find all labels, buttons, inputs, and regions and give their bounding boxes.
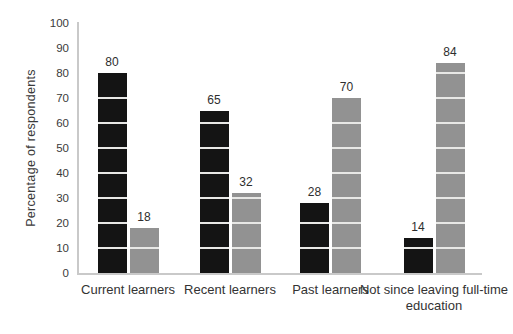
y-tick-label: 20 (37, 216, 69, 230)
bar-gray-series (436, 63, 465, 273)
gridline-segment (300, 247, 329, 249)
y-tick-label: 50 (37, 141, 69, 155)
bar-value-label: 32 (226, 175, 266, 189)
x-axis-baseline (77, 273, 482, 275)
y-tick-label: 30 (37, 191, 69, 205)
gridline-segment (404, 247, 433, 249)
gridline-segment (436, 122, 465, 124)
bar-black-series (200, 111, 229, 274)
bar-chart-figure: Percentage of respondents 01020304050607… (0, 0, 513, 334)
gridline-segment (436, 147, 465, 149)
bar-gray-series (232, 193, 261, 273)
gridline-segment (200, 147, 229, 149)
gridline-segment (98, 97, 127, 99)
gridline-segment (436, 97, 465, 99)
y-tick-label: 90 (37, 41, 69, 55)
gridline-segment (436, 72, 465, 74)
y-tick-label: 80 (37, 66, 69, 80)
gridline-segment (332, 172, 361, 174)
y-tick-label: 70 (37, 91, 69, 105)
y-tick-label: 40 (37, 166, 69, 180)
bar-black-series (404, 238, 433, 273)
gridline-segment (332, 247, 361, 249)
gridline-segment (332, 122, 361, 124)
gridline-segment (232, 197, 261, 199)
gridline-segment (332, 147, 361, 149)
bar-value-label: 14 (398, 220, 438, 234)
gridline-segment (98, 247, 127, 249)
category-label: Not since leaving full-time education (359, 282, 509, 313)
y-axis-line (77, 22, 79, 274)
gridline-segment (300, 222, 329, 224)
gridline-segment (232, 222, 261, 224)
bar-value-label: 84 (430, 45, 470, 59)
gridline-segment (200, 222, 229, 224)
bar-value-label: 28 (295, 185, 335, 199)
y-tick-label: 60 (37, 116, 69, 130)
gridline-segment (332, 197, 361, 199)
gridline-segment (98, 122, 127, 124)
bar-black-series (98, 73, 127, 273)
gridline-segment (436, 197, 465, 199)
gridline-segment (98, 172, 127, 174)
bar-value-label: 65 (194, 93, 234, 107)
gridline-segment (130, 247, 159, 249)
gridline-segment (332, 222, 361, 224)
gridline-segment (200, 247, 229, 249)
gridline-segment (200, 197, 229, 199)
bar-value-label: 80 (92, 55, 132, 69)
bar-gray-series (130, 228, 159, 273)
gridline-segment (232, 247, 261, 249)
gridline-segment (98, 197, 127, 199)
bar-black-series (300, 203, 329, 273)
gridline-segment (98, 147, 127, 149)
y-tick-label: 10 (37, 241, 69, 255)
gridline-segment (436, 222, 465, 224)
gridline-segment (200, 172, 229, 174)
bar-gray-series (332, 98, 361, 273)
bar-value-label: 70 (327, 80, 367, 94)
y-tick-label: 0 (37, 266, 69, 280)
gridline-segment (436, 247, 465, 249)
gridline-segment (98, 222, 127, 224)
gridline-segment (436, 172, 465, 174)
y-tick-label: 100 (37, 16, 69, 30)
y-axis-title: Percentage of respondents (24, 69, 38, 227)
gridline-segment (200, 122, 229, 124)
bar-value-label: 18 (124, 210, 164, 224)
